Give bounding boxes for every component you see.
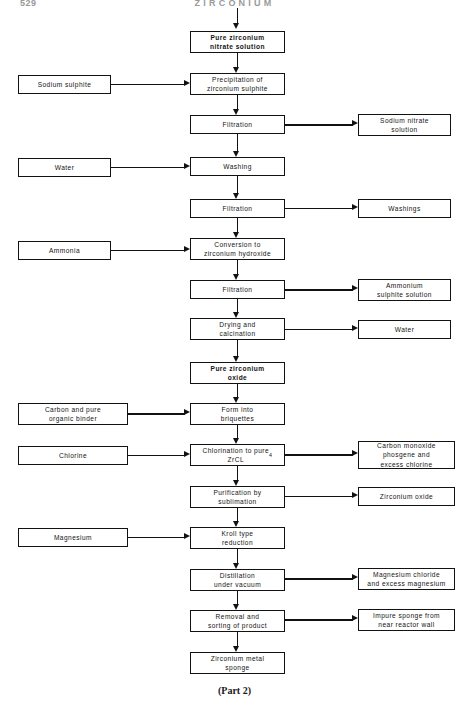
connector-p14-o7 bbox=[285, 578, 353, 580]
arrowhead-p15 bbox=[233, 604, 239, 610]
arrowhead-i1 bbox=[184, 80, 190, 86]
output-product-o7: Magnesium chloride and excess magnesium bbox=[358, 568, 455, 590]
output-product-o6: Zirconium oxide bbox=[358, 487, 455, 506]
connector-p10-p11 bbox=[237, 425, 239, 438]
arrowhead-i5 bbox=[184, 451, 190, 457]
arrowhead-o7 bbox=[352, 574, 358, 580]
connector-p11-p12 bbox=[237, 466, 239, 480]
connector-p13-p14 bbox=[237, 549, 239, 563]
arrowhead-p10 bbox=[233, 397, 239, 403]
output-product-o2: Washings bbox=[358, 199, 451, 218]
output-product-o4: Water bbox=[358, 320, 451, 339]
connector-i4-p10 bbox=[128, 413, 185, 415]
process-step-p1: Pure zirconium nitrate solution bbox=[190, 31, 285, 53]
process-step-p9: Pure zirconium oxide bbox=[190, 362, 285, 384]
arrowhead-p9 bbox=[233, 356, 239, 362]
output-product-o5: Carbon monoxide phosgene and excess chlo… bbox=[358, 441, 455, 469]
connector-p8-p9 bbox=[237, 340, 239, 356]
flowchart-canvas: Pure zirconium nitrate solutionPrecipita… bbox=[0, 0, 469, 704]
connector-p5-o2 bbox=[285, 208, 353, 210]
connector-p1-p2 bbox=[237, 53, 239, 67]
connector-p15-p16 bbox=[237, 632, 239, 646]
arrowhead-o3 bbox=[352, 285, 358, 291]
arrowhead-o4 bbox=[352, 325, 358, 331]
connector-p14-p15 bbox=[237, 591, 239, 604]
arrowhead-o5 bbox=[352, 450, 358, 456]
arrowhead-p7 bbox=[233, 274, 239, 280]
process-step-p4: Washing bbox=[190, 157, 285, 176]
input-material-i5: Chlorine bbox=[18, 446, 128, 465]
input-material-i4: Carbon and pure organic binder bbox=[18, 403, 128, 425]
connector-i5-p11 bbox=[128, 455, 185, 457]
arrowhead-p12 bbox=[233, 480, 239, 486]
arrowhead-p11 bbox=[233, 438, 239, 444]
process-step-p7: Filtration bbox=[190, 280, 285, 299]
connector-p2-p3 bbox=[237, 95, 239, 109]
arrowhead-p3 bbox=[233, 109, 239, 115]
connector-p7-o3 bbox=[285, 289, 353, 291]
process-step-p10: Form into briquettes bbox=[190, 403, 285, 425]
connector-p4-p5 bbox=[237, 176, 239, 193]
connector-p3-p4 bbox=[237, 134, 239, 151]
input-material-i3: Ammonia bbox=[18, 241, 111, 260]
arrowhead-i4 bbox=[184, 409, 190, 415]
connector-i2-p4 bbox=[111, 167, 185, 169]
process-step-p6: Conversion to zirconium hydroxide bbox=[190, 238, 285, 260]
arrowhead-p5 bbox=[233, 193, 239, 199]
connector-p7-p8 bbox=[237, 299, 239, 312]
arrowhead-i2 bbox=[184, 163, 190, 169]
input-material-i2: Water bbox=[18, 158, 111, 177]
process-step-p11: Chlorination to pure ZrCL4 bbox=[190, 444, 285, 466]
process-step-p15: Removal and sorting of product bbox=[190, 610, 285, 632]
connector-p3-o1 bbox=[285, 124, 353, 126]
output-product-o8: Impure sponge from near reactor wall bbox=[358, 609, 455, 631]
connector-p12-p13 bbox=[237, 508, 239, 521]
output-product-o3: Ammonium sulphite solution bbox=[358, 279, 451, 301]
process-step-p5: Filtration bbox=[190, 199, 285, 218]
arrowhead-p13 bbox=[233, 521, 239, 527]
arrowhead-o8 bbox=[352, 615, 358, 621]
process-step-p3: Filtration bbox=[190, 115, 285, 134]
arrowhead-p4 bbox=[233, 151, 239, 157]
process-step-p2: Precipitation of zirconium sulphite bbox=[190, 73, 285, 95]
output-product-o1: Sodium nitrate solution bbox=[358, 114, 451, 136]
arrowhead-o6 bbox=[352, 492, 358, 498]
connector-p6-p7 bbox=[237, 260, 239, 274]
process-step-p12: Purification by sublimation bbox=[190, 486, 285, 508]
arrowhead-p6 bbox=[233, 232, 239, 238]
input-material-i1: Sodium sulphite bbox=[18, 75, 111, 94]
process-step-p8: Drying and calcination bbox=[190, 318, 285, 340]
connector-p11-o5 bbox=[285, 454, 353, 456]
formula-subscript: 4 bbox=[269, 452, 272, 460]
connector-p15-o8 bbox=[285, 619, 353, 621]
input-material-i6: Magnesium bbox=[18, 528, 128, 547]
connector-p12-o6 bbox=[285, 496, 353, 498]
connector-p9-p10 bbox=[237, 384, 239, 397]
arrowhead-entry bbox=[233, 23, 239, 29]
arrowhead-p8 bbox=[233, 312, 239, 318]
arrowhead-p2 bbox=[233, 67, 239, 73]
arrowhead-o2 bbox=[352, 204, 358, 210]
connector-i1-p2 bbox=[111, 84, 185, 86]
arrowhead-p16 bbox=[233, 646, 239, 652]
figure-caption: (Part 2) bbox=[0, 685, 469, 696]
connector-p8-o4 bbox=[285, 329, 353, 331]
connector-p5-p6 bbox=[237, 218, 239, 232]
process-step-p13: Kroll type reduction bbox=[190, 527, 285, 549]
process-step-p16: Zirconium metal sponge bbox=[190, 652, 285, 674]
arrowhead-p14 bbox=[233, 563, 239, 569]
arrowhead-i3 bbox=[184, 246, 190, 252]
connector-i6-p13 bbox=[128, 537, 185, 539]
arrowhead-i6 bbox=[184, 533, 190, 539]
connector-i3-p6 bbox=[111, 250, 185, 252]
process-step-p14: Distillation under vacuum bbox=[190, 569, 285, 591]
arrowhead-o1 bbox=[352, 120, 358, 126]
